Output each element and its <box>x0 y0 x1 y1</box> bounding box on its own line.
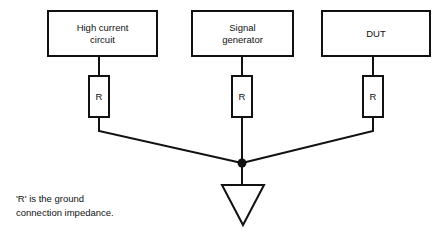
resistor-label-right: R <box>370 91 377 102</box>
block-label-high-current-circuit-line1: High current <box>77 22 129 33</box>
wire-resistor-right-to-junction <box>242 117 373 163</box>
block-label-dut-line1: DUT <box>366 28 386 39</box>
resistor-label-left: R <box>96 91 103 102</box>
block-dut: DUT <box>322 11 430 56</box>
block-signal-generator: Signal generator <box>192 11 293 56</box>
block-label-signal-generator-line1: Signal <box>229 22 255 33</box>
caption-line-2: connection impedance. <box>16 207 114 218</box>
caption-line-1: 'R' is the ground <box>16 193 84 204</box>
resistor-right: R <box>363 76 383 117</box>
block-high-current-circuit: High current circuit <box>48 11 157 56</box>
block-label-high-current-circuit-line2: circuit <box>90 34 115 45</box>
caption: 'R' is the ground connection impedance. <box>16 193 114 218</box>
wire-resistor-left-to-junction <box>99 117 242 163</box>
ground-triangle-icon <box>222 185 264 225</box>
resistor-left: R <box>89 76 109 117</box>
diagram-canvas: High current circuit Signal generator DU… <box>0 0 443 236</box>
resistor-label-middle: R <box>239 91 246 102</box>
block-label-signal-generator-line2: generator <box>222 34 263 45</box>
resistor-middle: R <box>232 76 252 117</box>
circuit-diagram: High current circuit Signal generator DU… <box>0 0 443 236</box>
